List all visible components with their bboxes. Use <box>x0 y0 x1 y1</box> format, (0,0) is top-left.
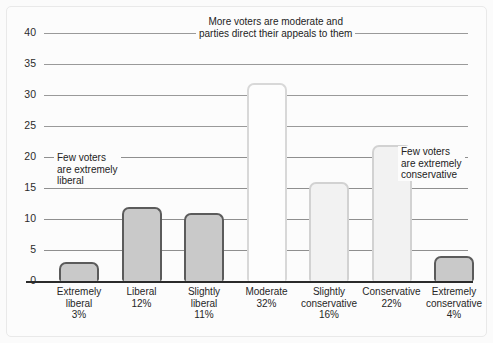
x-axis-label-slightly-conservative: Slightlyconservative16% <box>296 286 362 321</box>
category-percent: 32% <box>234 298 300 310</box>
annotation-right-line2: are extremely <box>401 158 462 169</box>
chart-figure: 4035302520151050 Extremelyliberal3%Liber… <box>0 0 493 343</box>
category-line1: Slightly <box>313 286 345 297</box>
category-percent: 4% <box>421 309 487 321</box>
annotation-top-line1: More voters are moderate and <box>208 16 343 27</box>
category-percent: 12% <box>109 298 175 310</box>
y-axis-tick-35: 35 <box>10 58 36 69</box>
annotation-top: More voters are moderate and parties dir… <box>196 16 355 39</box>
y-axis-tick-40: 40 <box>10 27 36 38</box>
y-axis-tick-10: 10 <box>10 213 36 224</box>
category-line2: conservative <box>301 298 357 309</box>
category-line2: conservative <box>426 298 482 309</box>
y-axis-tick-30: 30 <box>10 89 36 100</box>
bar-slightly-conservative <box>309 182 349 281</box>
category-line1: Moderate <box>245 286 287 297</box>
y-axis-tick-15: 15 <box>10 182 36 193</box>
bar-liberal <box>122 207 162 281</box>
category-line1: Slightly <box>188 286 220 297</box>
annotation-right: Few voters are extremely conservative <box>398 146 465 181</box>
x-axis-label-conservative: Conservative22% <box>359 286 425 309</box>
x-axis-label-extremely-conservative: Extremelyconservative4% <box>421 286 487 321</box>
bar-slightly-liberal <box>184 213 224 281</box>
annotation-left-line1: Few voters <box>57 152 106 163</box>
x-axis-line <box>26 281 473 283</box>
chart-plot-area: 4035302520151050 Extremelyliberal3%Liber… <box>0 0 493 343</box>
category-line2: liberal <box>66 298 93 309</box>
x-axis-label-liberal: Liberal12% <box>109 286 175 309</box>
category-percent: 11% <box>171 309 237 321</box>
category-line1: Extremely <box>432 286 476 297</box>
x-axis-label-moderate: Moderate32% <box>234 286 300 309</box>
category-percent: 22% <box>359 298 425 310</box>
x-axis-label-extremely-liberal: Extremelyliberal3% <box>46 286 112 321</box>
bar-extremely-liberal <box>59 262 99 281</box>
annotation-left: Few voters are extremely liberal <box>54 152 121 187</box>
category-percent: 16% <box>296 309 362 321</box>
annotation-top-line2: parties direct their appeals to them <box>199 28 352 39</box>
annotation-left-line3: liberal <box>57 175 84 186</box>
category-line2: liberal <box>191 298 218 309</box>
category-line1: Liberal <box>126 286 156 297</box>
annotation-right-line3: conservative <box>401 169 457 180</box>
category-line1: Extremely <box>57 286 101 297</box>
x-axis-label-slightly-liberal: Slightlyliberal11% <box>171 286 237 321</box>
y-axis-tick-5: 5 <box>10 244 36 255</box>
bar-moderate <box>247 83 287 281</box>
category-percent: 3% <box>46 309 112 321</box>
y-axis-tick-25: 25 <box>10 120 36 131</box>
gridline-35 <box>44 64 468 65</box>
annotation-left-line2: are extremely <box>57 164 118 175</box>
bar-extremely-conservative <box>434 256 474 281</box>
category-line1: Conservative <box>362 286 420 297</box>
annotation-right-line1: Few voters <box>401 146 450 157</box>
y-axis-tick-20: 20 <box>10 151 36 162</box>
